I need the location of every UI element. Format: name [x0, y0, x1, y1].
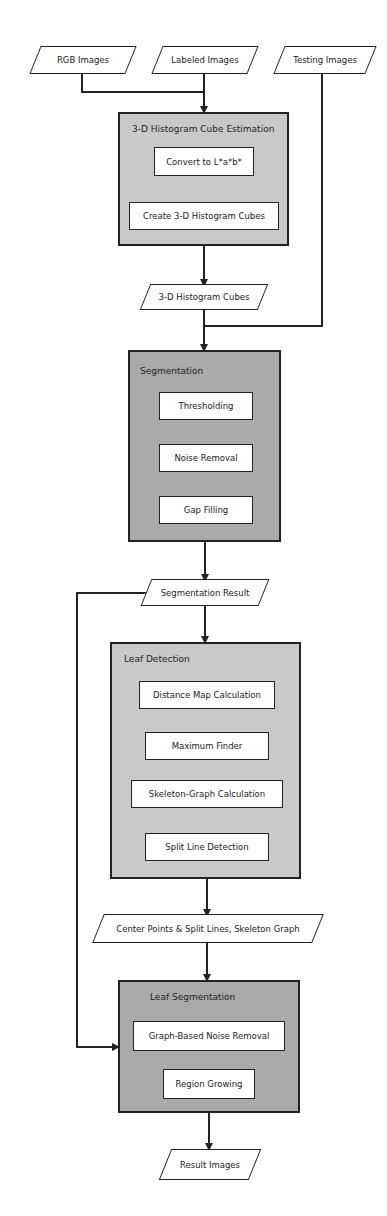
step-split-line-detection: Split Line Detection	[145, 833, 269, 861]
group-title: 3-D Histogram Cube Estimation	[132, 124, 274, 134]
data-segmentation-result-label: Segmentation Result	[146, 579, 264, 606]
group-title: Segmentation	[140, 366, 203, 376]
input-rgb-images: RGB Images	[35, 46, 131, 74]
step-distance-map: Distance Map Calculation	[139, 681, 275, 709]
input-rgb-label: RGB Images	[35, 46, 131, 74]
data-center-points-split-lines: Center Points & Split Lines, Skeleton Gr…	[98, 914, 318, 943]
step-create-histogram-cubes: Create 3-D Histogram Cubes	[129, 202, 279, 230]
step-skeleton-graph: Skeleton-Graph Calculation	[131, 780, 283, 808]
step-noise-removal: Noise Removal	[159, 444, 253, 472]
step-region-growing: Region Growing	[163, 1069, 255, 1099]
data-histogram-cubes: 3-D Histogram Cubes	[145, 284, 263, 310]
output-result-images-label: Result Images	[165, 1149, 255, 1180]
step-thresholding: Thresholding	[159, 392, 253, 420]
input-labeled-images: Labeled Images	[157, 46, 253, 74]
input-testing-images: Testing Images	[279, 46, 371, 74]
input-testing-label: Testing Images	[279, 46, 371, 74]
step-gap-filling: Gap Filling	[159, 496, 253, 524]
data-segmentation-result: Segmentation Result	[146, 579, 264, 606]
step-graph-based-noise-removal: Graph-Based Noise Removal	[133, 1021, 285, 1051]
group-title: Leaf Segmentation	[150, 992, 235, 1002]
output-result-images: Result Images	[165, 1149, 255, 1180]
step-convert-lab: Convert to L*a*b*	[154, 147, 254, 176]
data-center-points-label: Center Points & Split Lines, Skeleton Gr…	[98, 914, 318, 943]
input-labeled-label: Labeled Images	[157, 46, 253, 74]
group-title: Leaf Detection	[124, 654, 190, 664]
step-maximum-finder: Maximum Finder	[145, 732, 269, 760]
data-histogram-cubes-label: 3-D Histogram Cubes	[145, 284, 263, 310]
